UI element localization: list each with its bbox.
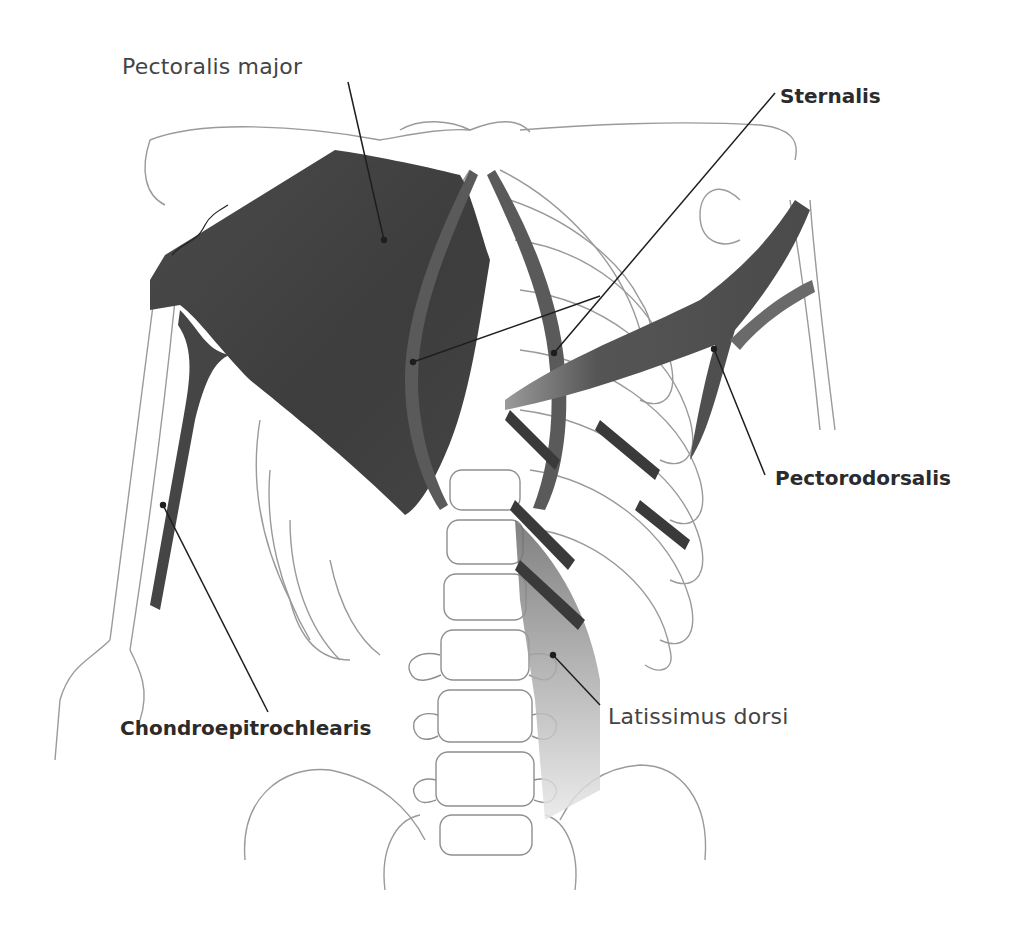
label-chondroepitrochlearis: Chondroepitrochlearis <box>120 716 371 740</box>
label-sternalis: Sternalis <box>780 84 881 108</box>
latissimus-dorsi-muscle <box>515 520 600 820</box>
leader-pectorodorsalis <box>714 349 765 475</box>
chondroepitrochlearis-muscle <box>150 310 230 610</box>
label-latissimus-dorsi: Latissimus dorsi <box>608 704 789 729</box>
leader-chondroepitrochlearis <box>163 505 268 712</box>
label-pectoralis-major: Pectoralis major <box>122 54 302 79</box>
pectoralis-major-muscle <box>150 150 490 515</box>
label-pectorodorsalis: Pectorodorsalis <box>775 466 951 490</box>
